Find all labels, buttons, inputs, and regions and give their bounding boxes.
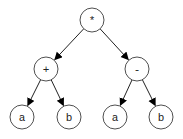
node-plus: + bbox=[34, 57, 58, 81]
edge-minus-b2 bbox=[142, 80, 155, 106]
node-b2: b bbox=[149, 105, 173, 129]
node-label: a bbox=[19, 112, 26, 124]
edge-plus-b1 bbox=[51, 80, 63, 105]
node-label: a bbox=[112, 112, 119, 124]
edge-root-minus bbox=[100, 29, 128, 60]
node-label: b bbox=[158, 112, 165, 124]
edge-root-plus bbox=[55, 29, 84, 60]
node-a1: a bbox=[10, 105, 34, 129]
node-b1: b bbox=[57, 105, 81, 129]
edge-plus-a1 bbox=[28, 80, 41, 106]
edge-minus-a2 bbox=[120, 80, 132, 105]
node-minus: - bbox=[125, 57, 149, 81]
node-label: * bbox=[89, 15, 96, 27]
node-label: - bbox=[134, 64, 141, 76]
node-label: b bbox=[66, 112, 73, 124]
expression-tree: *+-abab bbox=[0, 0, 183, 139]
node-root: * bbox=[80, 8, 104, 32]
node-label: + bbox=[43, 64, 50, 76]
node-a2: a bbox=[103, 105, 127, 129]
